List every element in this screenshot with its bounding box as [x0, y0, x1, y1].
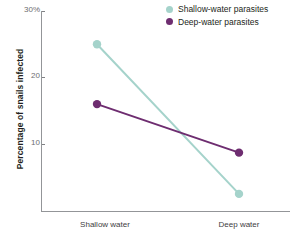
- data-point-0-1[interactable]: [235, 190, 243, 198]
- data-point-1-0[interactable]: [93, 100, 101, 108]
- chart-container: Percentage of snails infected 30% 20 10 …: [0, 0, 298, 245]
- legend-label-deep: Deep-water parasites: [178, 18, 259, 27]
- legend-item-shallow-water-parasites[interactable]: Shallow-water parasites: [166, 5, 268, 14]
- x-tick-label-deep-water: Deep water: [196, 220, 282, 229]
- legend-item-deep-water-parasites[interactable]: Deep-water parasites: [166, 18, 268, 27]
- legend-label-shallow: Shallow-water parasites: [178, 5, 268, 14]
- series-line-0: [97, 44, 239, 194]
- legend-marker-icon-deep: [166, 18, 173, 25]
- data-point-1-1[interactable]: [235, 148, 243, 156]
- x-tick-label-shallow-water: Shallow water: [60, 220, 150, 229]
- data-point-0-0[interactable]: [93, 40, 101, 48]
- plot-area: [0, 0, 298, 245]
- series-line-1: [97, 104, 239, 153]
- chart-legend: Shallow-water parasites Deep-water paras…: [166, 5, 268, 26]
- legend-marker-icon-shallow: [166, 6, 173, 13]
